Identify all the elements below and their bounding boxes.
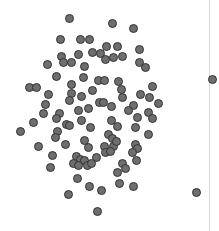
data-point (107, 102, 116, 111)
data-point (208, 75, 217, 84)
data-point (113, 42, 122, 51)
data-point (65, 121, 74, 130)
data-point (44, 90, 53, 99)
data-point (74, 161, 83, 170)
data-point (74, 106, 83, 115)
data-point (141, 63, 150, 72)
data-point (132, 156, 141, 165)
data-point (76, 35, 85, 44)
data-point (108, 19, 117, 28)
data-point (133, 113, 142, 122)
data-point (118, 93, 127, 102)
data-point (79, 73, 88, 82)
data-point (73, 174, 82, 183)
vertical-reference-line (209, 0, 210, 231)
data-point (52, 72, 61, 81)
data-point (84, 143, 93, 152)
data-point (77, 92, 86, 101)
data-point (135, 45, 144, 54)
data-point (145, 93, 154, 102)
data-point (85, 35, 94, 44)
data-point (16, 127, 25, 136)
data-point (65, 96, 74, 105)
data-point (39, 109, 48, 118)
data-point (121, 164, 130, 173)
data-point (77, 116, 86, 125)
data-point (32, 83, 41, 92)
data-point (106, 147, 115, 156)
data-point (43, 60, 52, 69)
data-point (136, 90, 145, 99)
data-point (88, 86, 97, 95)
data-point (97, 186, 106, 195)
data-point (148, 82, 157, 91)
data-point (112, 137, 121, 146)
data-point (148, 114, 157, 123)
plot-surface (0, 0, 219, 231)
data-point (61, 140, 70, 149)
data-point (48, 151, 57, 160)
data-point (118, 52, 127, 61)
data-point (154, 99, 163, 108)
data-point (80, 62, 89, 71)
data-point (51, 133, 60, 142)
data-point (34, 142, 43, 151)
data-point (67, 80, 76, 89)
data-point (115, 179, 124, 188)
data-point (67, 58, 76, 67)
data-point (192, 188, 201, 197)
data-point (64, 190, 73, 199)
data-point (56, 35, 65, 44)
data-point (65, 14, 74, 23)
data-point (93, 207, 102, 216)
data-point (124, 106, 133, 115)
data-point (59, 58, 68, 67)
data-point (84, 104, 93, 113)
data-point (86, 123, 95, 132)
data-point (129, 24, 138, 33)
data-point (29, 118, 38, 127)
data-point (41, 100, 50, 109)
data-point (113, 122, 122, 131)
data-point (129, 182, 138, 191)
data-point (100, 76, 109, 85)
data-point (113, 168, 122, 177)
data-point (85, 182, 94, 191)
data-point (46, 163, 55, 172)
data-point (87, 159, 96, 168)
scatter-plot (0, 0, 219, 231)
data-point (74, 50, 83, 59)
data-point (144, 130, 153, 139)
data-point (131, 123, 140, 132)
data-point (52, 114, 61, 123)
data-point (109, 53, 118, 62)
